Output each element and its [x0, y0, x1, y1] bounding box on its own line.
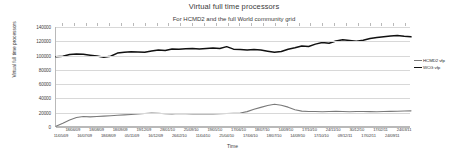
- chart-legend: HCMD2 vfpWCG vfp: [414, 57, 445, 71]
- y-axis-tick-label: 0: [49, 125, 51, 130]
- x-axis-tick: [145, 23, 146, 26]
- x-axis-tick-label: 28/01/10: [160, 127, 175, 132]
- y-axis-tick-label: 60000: [39, 82, 51, 87]
- x-axis-tick: [192, 23, 193, 26]
- x-axis-tick: [133, 23, 134, 26]
- x-axis-tick: [180, 23, 181, 26]
- x-axis-tick: [109, 23, 110, 26]
- grid-line: [56, 41, 410, 42]
- x-axis-tick-label: 14/09/10: [278, 127, 293, 132]
- x-axis-tick-label: 18/08/09: [89, 127, 104, 132]
- x-axis-tick: [216, 23, 217, 26]
- x-axis-tick: [346, 23, 347, 26]
- x-axis-tick-label: 24/11/10: [326, 127, 340, 132]
- x-axis-tick-label: 18/08/09: [101, 133, 116, 138]
- grid-line: [56, 70, 410, 71]
- x-axis-tick: [263, 23, 264, 26]
- chart-subtitle: For HCMD2 and the full World community g…: [0, 16, 468, 22]
- legend-item: HCMD2 vfp: [414, 57, 445, 64]
- x-axis-tick: [370, 23, 371, 26]
- legend-item: WCG vfp: [414, 64, 445, 71]
- legend-color-swatch: [414, 67, 422, 68]
- y-axis-tick-label: 140000: [36, 25, 51, 30]
- x-axis-tick-label: 24/03/11: [397, 127, 411, 132]
- x-axis-tick-label: 11/05/09: [54, 133, 68, 138]
- x-axis-tick-label: 25/09/10: [184, 127, 199, 132]
- x-axis-tick-label: 17/02/11: [373, 127, 387, 132]
- x-axis-tick-label: 14/09/10: [290, 133, 305, 138]
- x-axis-tick: [287, 23, 288, 26]
- x-axis-tick: [334, 23, 335, 26]
- x-axis-tick: [251, 23, 252, 26]
- series-line: [56, 104, 411, 126]
- x-axis-tick: [62, 23, 63, 26]
- x-axis-tick-label: 17/10/10: [302, 127, 317, 132]
- x-axis-tick: [275, 23, 276, 26]
- x-axis-tick: [358, 23, 359, 26]
- x-axis-tick-label: 30/12/10: [349, 127, 364, 132]
- x-axis-title: Time: [55, 143, 410, 149]
- legend-item-label: WCG vfp: [423, 64, 440, 71]
- x-axis-tick: [74, 23, 75, 26]
- plot-area: [55, 27, 410, 127]
- y-axis-tick-label: 40000: [39, 96, 51, 101]
- grid-line: [56, 113, 410, 114]
- grid-line: [56, 98, 410, 99]
- y-axis-tick-label: 20000: [39, 110, 51, 115]
- y-axis-tick-label: 80000: [39, 67, 51, 72]
- x-axis-tick: [322, 23, 323, 26]
- legend-color-swatch: [414, 60, 422, 61]
- x-axis-tick-label: 05/11/09: [125, 133, 139, 138]
- x-axis-tick: [86, 23, 87, 26]
- x-axis-tick: [299, 23, 300, 26]
- x-axis-tick-label: 16/07/09: [77, 133, 92, 138]
- x-axis-tick: [168, 23, 169, 26]
- x-axis-tick: [239, 23, 240, 26]
- x-axis-tick-label: 19/12/09: [136, 127, 151, 132]
- x-axis-tick: [228, 23, 229, 26]
- x-axis-tick-label: 17/06/10: [231, 127, 246, 132]
- x-axis-tick: [381, 23, 382, 26]
- y-axis-tick-labels: 020000400006000080000100000120000140000: [0, 27, 53, 127]
- x-axis-tick-label: 18/09/09: [113, 127, 128, 132]
- x-axis-tick-label: 18/07/10: [255, 127, 270, 132]
- grid-line: [56, 84, 410, 85]
- x-axis-tick-label: 16/12/09: [148, 133, 163, 138]
- x-axis-tick-label: 25/04/10: [219, 133, 234, 138]
- x-axis-tick-label: 11/04/10: [196, 133, 210, 138]
- x-axis-tick-label: 17/06/10: [243, 133, 258, 138]
- x-axis-tick-label: 26/02/10: [172, 133, 187, 138]
- x-axis-tick: [204, 23, 205, 26]
- x-axis-tick: [157, 23, 158, 26]
- y-axis-tick-label: 120000: [36, 39, 51, 44]
- x-axis-tick-label: 19/05/10: [207, 127, 222, 132]
- x-axis-tick-label: 17/10/10: [314, 133, 329, 138]
- y-axis-tick-label: 100000: [36, 53, 51, 58]
- series-line: [56, 35, 411, 57]
- x-axis-tick: [393, 23, 394, 26]
- x-axis-tick: [121, 23, 122, 26]
- chart-title: Virtual full time processors: [0, 2, 468, 11]
- grid-line: [56, 27, 410, 28]
- grid-line: [56, 56, 410, 57]
- x-axis-tick: [97, 23, 98, 26]
- legend-item-label: HCMD2 vfp: [423, 57, 445, 64]
- x-axis-tick: [405, 23, 406, 26]
- x-axis-tick-label: 17/02/11: [361, 133, 375, 138]
- x-axis-tick-label: 09/12/11: [338, 133, 352, 138]
- chart-container: Virtual full time processors For HCMD2 a…: [0, 0, 468, 155]
- x-axis-tick-labels: 11/05/0918/06/0916/07/0918/08/0918/08/09…: [55, 127, 410, 143]
- x-axis-tick-label: 24/09/11: [385, 133, 399, 138]
- x-axis-tick-label: 18/07/10: [267, 133, 282, 138]
- x-axis-tick-label: 18/06/09: [65, 127, 80, 132]
- x-axis-tick: [310, 23, 311, 26]
